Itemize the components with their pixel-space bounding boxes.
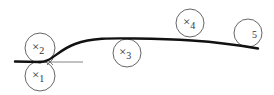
roller-2-label: ×2 <box>32 39 44 56</box>
roller-5-label: 5 <box>252 29 257 40</box>
roller-1-label: ×1 <box>32 67 44 84</box>
roller-4-label: ×4 <box>183 14 195 31</box>
roller-5-circle <box>234 19 262 47</box>
strip-curve <box>15 38 258 62</box>
roller-diagram: ×2 ×1 ×3 ×4 5 <box>0 0 274 95</box>
roller-3-label: ×3 <box>119 44 131 61</box>
diagram-canvas: ×2 ×1 ×3 ×4 5 <box>0 0 274 95</box>
